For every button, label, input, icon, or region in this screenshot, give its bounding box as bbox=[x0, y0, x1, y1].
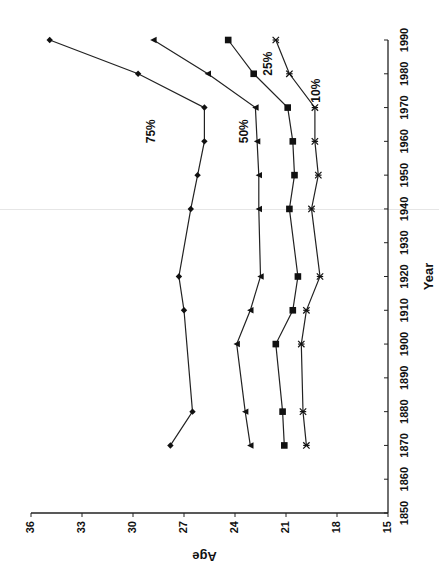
square-marker-icon bbox=[290, 307, 297, 314]
year-tick-label: 1990 bbox=[398, 28, 410, 52]
age-tick-label: 30 bbox=[126, 521, 138, 533]
diamond-marker-icon bbox=[47, 37, 53, 43]
year-tick-label: 1890 bbox=[398, 366, 410, 390]
line-chart: 1518212427303336Age185018601870188018901… bbox=[0, 0, 439, 585]
diamond-marker-icon bbox=[135, 71, 141, 77]
year-tick-label: 1920 bbox=[398, 264, 410, 288]
star-marker-icon bbox=[286, 71, 292, 77]
triangle-marker-icon bbox=[150, 37, 156, 43]
series-line bbox=[153, 40, 260, 445]
series-label: 10% bbox=[309, 78, 323, 102]
age-tick-label: 18 bbox=[330, 521, 342, 533]
star-marker-icon bbox=[273, 37, 279, 43]
age-tick-label: 24 bbox=[228, 520, 240, 533]
age-tick-label: 21 bbox=[279, 521, 291, 533]
year-tick-label: 1940 bbox=[398, 197, 410, 221]
diamond-marker-icon bbox=[181, 307, 187, 313]
year-tick-label: 1850 bbox=[398, 501, 410, 525]
diamond-marker-icon bbox=[176, 273, 182, 279]
series-group bbox=[47, 37, 324, 449]
diamond-marker-icon bbox=[194, 172, 200, 178]
year-tick-label: 1970 bbox=[398, 95, 410, 119]
axes: 1518212427303336Age185018601870188018901… bbox=[24, 28, 437, 564]
year-tick-label: 1950 bbox=[398, 163, 410, 187]
series-75pct bbox=[47, 37, 208, 449]
diamond-marker-icon bbox=[189, 408, 195, 414]
series-label: 50% bbox=[237, 119, 251, 143]
square-marker-icon bbox=[295, 273, 302, 280]
square-marker-icon bbox=[279, 408, 286, 415]
age-tick-label: 36 bbox=[24, 521, 36, 533]
square-marker-icon bbox=[291, 172, 298, 179]
triangle-marker-icon bbox=[205, 71, 211, 77]
series-line bbox=[50, 40, 205, 445]
square-marker-icon bbox=[273, 341, 280, 348]
year-tick-label: 1860 bbox=[398, 467, 410, 491]
diamond-marker-icon bbox=[201, 104, 207, 110]
year-tick-label: 1930 bbox=[398, 230, 410, 254]
series-50pct bbox=[150, 37, 264, 449]
year-tick-label: 1880 bbox=[398, 399, 410, 423]
age-tick-label: 27 bbox=[177, 521, 189, 533]
year-tick-label: 1910 bbox=[398, 298, 410, 322]
square-marker-icon bbox=[281, 442, 288, 449]
series-label: 75% bbox=[144, 119, 158, 143]
diamond-marker-icon bbox=[188, 206, 194, 212]
year-tick-label: 1980 bbox=[398, 62, 410, 86]
square-marker-icon bbox=[225, 37, 232, 44]
square-marker-icon bbox=[290, 138, 297, 145]
diamond-marker-icon bbox=[167, 442, 173, 448]
square-marker-icon bbox=[286, 206, 293, 213]
year-tick-label: 1960 bbox=[398, 129, 410, 153]
diamond-marker-icon bbox=[201, 138, 207, 144]
year-axis-title: Year bbox=[421, 263, 436, 290]
triangle-marker-icon bbox=[247, 307, 253, 313]
age-axis-title: Age bbox=[192, 549, 217, 564]
year-tick-label: 1870 bbox=[398, 433, 410, 457]
age-tick-label: 33 bbox=[75, 521, 87, 533]
series-25pct bbox=[225, 37, 301, 449]
series-label: 25% bbox=[261, 51, 275, 75]
square-marker-icon bbox=[284, 104, 291, 111]
age-tick-label: 15 bbox=[381, 521, 393, 533]
series-labels: 75%50%25%10% bbox=[144, 51, 323, 143]
series-line bbox=[228, 40, 298, 445]
year-tick-label: 1900 bbox=[398, 332, 410, 356]
square-marker-icon bbox=[250, 70, 257, 77]
